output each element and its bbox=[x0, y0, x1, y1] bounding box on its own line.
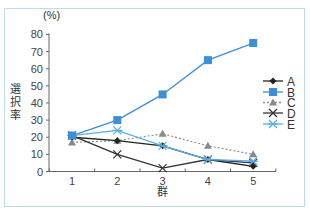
y-tick-label: 30 bbox=[31, 114, 43, 126]
data-marker bbox=[68, 132, 76, 140]
data-marker bbox=[159, 130, 167, 137]
y-axis-title: 選択率 bbox=[10, 83, 21, 121]
series-line bbox=[72, 137, 253, 166]
data-marker bbox=[269, 88, 277, 96]
y-tick-label: 40 bbox=[31, 97, 43, 109]
series-b bbox=[68, 39, 257, 140]
y-tick-label: 20 bbox=[31, 131, 43, 143]
series-line bbox=[72, 136, 253, 169]
data-marker bbox=[113, 116, 121, 124]
axes: 0102030405060708012345 bbox=[31, 28, 276, 187]
y-unit-label: (%) bbox=[43, 9, 60, 21]
data-marker bbox=[249, 39, 257, 47]
y-title-char: 択 bbox=[10, 95, 21, 108]
line-chart: 0102030405060708012345 ABCDE (%) 選択率 群 bbox=[0, 0, 310, 215]
x-tick-label: 4 bbox=[205, 175, 211, 187]
y-tick-label: 70 bbox=[31, 46, 43, 58]
y-tick-label: 80 bbox=[31, 28, 43, 40]
y-title-char: 率 bbox=[10, 108, 21, 121]
data-marker bbox=[270, 78, 277, 85]
x-tick-label: 2 bbox=[114, 175, 120, 187]
y-tick-label: 50 bbox=[31, 80, 43, 92]
data-marker bbox=[204, 142, 212, 149]
data-marker bbox=[159, 90, 167, 98]
data-marker bbox=[204, 56, 212, 64]
series-d bbox=[68, 132, 257, 173]
legend: ABCDE bbox=[263, 75, 296, 132]
x-tick-label: 5 bbox=[250, 175, 256, 187]
y-tick-label: 60 bbox=[31, 63, 43, 75]
series-a bbox=[69, 134, 257, 170]
y-title-char: 選 bbox=[10, 83, 21, 95]
x-tick-label: 1 bbox=[69, 175, 75, 187]
series-line bbox=[72, 43, 253, 136]
series-group bbox=[67, 39, 258, 172]
legend-label: E bbox=[287, 118, 295, 132]
x-axis-title: 群 bbox=[157, 185, 168, 198]
y-tick-label: 0 bbox=[37, 166, 43, 178]
legend-item-e: E bbox=[263, 118, 295, 132]
y-tick-label: 10 bbox=[31, 148, 43, 160]
